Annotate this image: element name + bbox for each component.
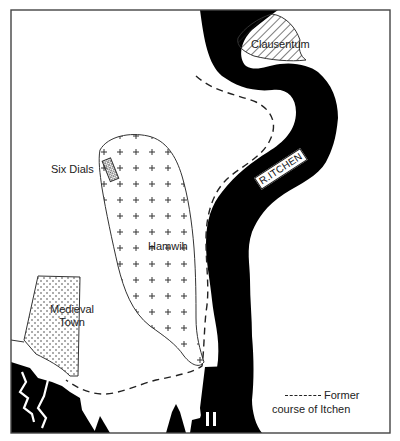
medieval-town-label-line1: Medieval (44, 303, 100, 316)
legend: Former course of Itchen (272, 388, 359, 416)
legend-text-line1: Former (324, 388, 359, 402)
six-dials-label: Six Dials (51, 163, 94, 176)
hamwih-label: Hamwih (148, 240, 188, 253)
legend-row-1: Former (272, 388, 359, 402)
medieval-town-label-line2: Town (44, 316, 100, 329)
dashed-line-icon (285, 395, 321, 396)
clausentum-label: Clausentum (251, 38, 310, 51)
map: Clausentum Hamwih Six Dials Medieval Tow… (0, 0, 400, 441)
map-canvas (0, 0, 400, 441)
legend-text-line2: course of Itchen (272, 402, 359, 416)
medieval-town-label: Medieval Town (44, 303, 100, 329)
